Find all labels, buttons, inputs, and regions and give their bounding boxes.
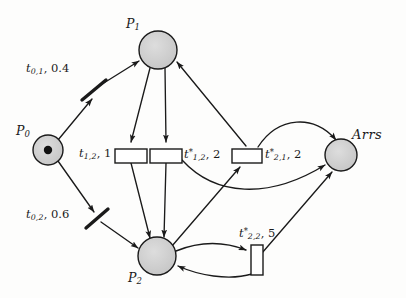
arc-t22s-to-p2	[178, 266, 252, 277]
transition-box-t21s[interactable]	[232, 149, 262, 163]
arc-p0-to-t02	[58, 161, 94, 212]
arc-t21s-to-p1	[177, 62, 246, 146]
place-P0-token	[44, 146, 52, 154]
arc-t21s-to-arrs	[258, 122, 336, 147]
petri-net-figure: P0 P1 P2 Arrs t0,1, 0.4 t0,2, 0.6 t1,2, …	[0, 0, 406, 298]
place-label-Arrs: Arrs	[352, 128, 382, 141]
transition-bar-t01	[82, 80, 106, 100]
transitions-group	[115, 149, 263, 275]
arc-p1-to-t12	[131, 68, 150, 142]
arc-t12s-to-p2	[164, 163, 166, 237]
place-label-P0: P0	[16, 125, 30, 138]
transition-label-t01: t0,1, 0.4	[26, 63, 69, 76]
transition-label-t02: t0,2, 0.6	[26, 209, 69, 222]
transition-label-t22s: t*2,2, 5	[239, 227, 275, 241]
place-P2[interactable]	[138, 237, 176, 275]
transition-box-t22s[interactable]	[251, 245, 263, 275]
transition-label-t12s: t*1,2, 2	[184, 148, 220, 162]
place-label-P1: P1	[126, 18, 140, 31]
transition-box-t12[interactable]	[115, 149, 147, 163]
arc-p2-to-t22s	[176, 244, 246, 251]
arc-t12s-to-arrs	[182, 160, 325, 189]
arc-p1-to-t12s	[165, 68, 166, 142]
arc-t02-to-p2	[101, 222, 138, 248]
transition-label-t21s: t*2,1, 2	[265, 148, 301, 162]
place-P1[interactable]	[139, 31, 177, 69]
place-label-P2: P2	[128, 272, 142, 285]
arc-p0-to-t01	[58, 99, 92, 140]
arc-t12-to-p2	[131, 163, 150, 238]
place-Arrs[interactable]	[325, 139, 357, 171]
transition-box-t12s[interactable]	[150, 149, 182, 163]
transition-label-t12: t1,2, 1	[79, 148, 111, 161]
